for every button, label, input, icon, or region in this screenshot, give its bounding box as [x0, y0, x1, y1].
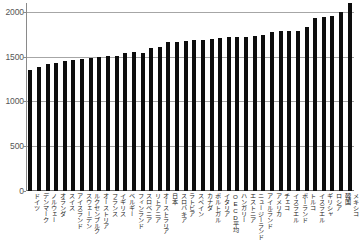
y-tick-label-500: 500: [0, 141, 24, 151]
bar: [71, 60, 75, 192]
bar: [227, 37, 231, 191]
x-axis-label: チェコ: [283, 193, 290, 211]
bar: [210, 39, 214, 191]
x-axis-label: 日本: [171, 193, 178, 205]
x-axis-label: スウェーデン: [85, 193, 92, 228]
x-axis-label: ポルトガル: [214, 193, 221, 223]
bar: [141, 53, 145, 191]
bar: [132, 52, 136, 191]
x-axis-label: フィンランド: [136, 193, 143, 228]
bar: [244, 37, 248, 191]
x-axis-label: デンマーク: [42, 193, 49, 223]
bar: [123, 53, 127, 191]
bar: [296, 31, 300, 191]
x-axis-label: エストニア: [249, 193, 256, 223]
x-axis-label: スペイン: [197, 193, 204, 217]
x-axis-label: イタリア: [223, 193, 230, 217]
x-axis-label: カナダ: [206, 193, 213, 211]
bar: [28, 70, 32, 191]
bar: [106, 56, 110, 191]
x-axis-label: ラトビア: [188, 193, 195, 217]
x-axis-label: ルクセンブルク: [93, 193, 100, 234]
bar: [63, 61, 67, 191]
x-axis-label: ベルギー: [128, 193, 135, 217]
bar: [54, 63, 58, 191]
bar: [261, 35, 265, 191]
bar: [218, 38, 222, 191]
x-axis-label: トルコ: [309, 193, 316, 211]
x-axis-label: ハンガリー: [240, 193, 247, 223]
y-tick-label-0: 0: [0, 186, 24, 196]
plot-area: [26, 3, 354, 191]
bar: [80, 59, 84, 191]
gridline-2000: [26, 12, 354, 13]
bar: [158, 47, 162, 191]
x-axis-label: リトアニア: [154, 193, 161, 223]
bar: [287, 31, 291, 191]
bar: [192, 40, 196, 191]
bar: [279, 31, 283, 191]
bar: [166, 42, 170, 191]
x-axis-label: ドイツ: [33, 193, 40, 211]
x-axis-label: オーストラリア: [162, 193, 169, 234]
x-axis-label: OECD平均: [231, 193, 238, 232]
x-axis-label: アイルランド: [266, 193, 273, 228]
x-axis-label: ギリシャ: [326, 193, 333, 217]
x-axis-label: イスラエル: [318, 193, 325, 223]
x-axis-label: スロバキア: [180, 193, 187, 223]
x-axis-label: フランス: [111, 193, 118, 217]
x-axis-label: 韓国: [344, 193, 351, 205]
bar: [46, 64, 50, 191]
bar: [97, 57, 101, 191]
bar: [89, 58, 93, 191]
x-axis-label: オランダ: [59, 193, 66, 217]
x-axis-label: ノルウェー: [50, 193, 57, 223]
x-axis-label: ニュージーランド: [257, 193, 264, 240]
bar: [322, 17, 326, 191]
x-axis-label: ポーランド: [300, 193, 307, 223]
bar: [175, 42, 179, 191]
x-axis-label: アイスランド: [76, 193, 83, 228]
bar: [270, 32, 274, 191]
x-axis-label: イギリス: [119, 193, 126, 217]
x-axis-label: スイス: [67, 193, 74, 211]
bar: [253, 36, 257, 191]
y-axis-spine: [26, 3, 27, 191]
bar: [184, 41, 188, 191]
bar: [201, 40, 205, 191]
bar: [305, 27, 309, 191]
y-tick-label-1500: 1500: [0, 52, 24, 62]
x-axis-labels: ドイツデンマークノルウェーオランダスイスアイスランドスウェーデンルクセンブルクオ…: [26, 193, 354, 250]
x-axis-label: スロベニア: [145, 193, 152, 223]
x-axis-label: アメリカ: [275, 193, 282, 217]
y-tick-mark-0: [23, 191, 26, 192]
bar: [339, 12, 343, 191]
bar: [115, 56, 119, 191]
y-tick-label-2000: 2000: [0, 7, 24, 17]
bar: [313, 18, 317, 191]
bar: [348, 3, 352, 191]
bar: [149, 48, 153, 191]
bar: [330, 16, 334, 191]
bar: [37, 67, 41, 191]
y-tick-label-1000: 1000: [0, 96, 24, 106]
x-axis-label: メキシコ: [352, 193, 359, 217]
x-axis-label: ロシア: [335, 193, 342, 211]
x-axis-label: イスラエル: [292, 193, 299, 223]
x-axis-label: オーストリア: [102, 193, 109, 228]
bar: [235, 37, 239, 191]
